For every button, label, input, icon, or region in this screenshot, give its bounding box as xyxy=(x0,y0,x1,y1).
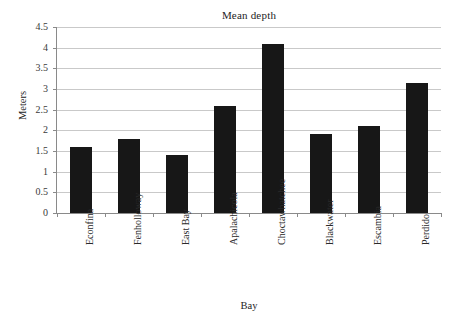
y-tick-mark xyxy=(53,130,57,131)
x-tick-mark xyxy=(345,213,346,217)
gridline xyxy=(57,89,441,90)
bar xyxy=(70,147,92,213)
x-tick-mark xyxy=(153,213,154,217)
x-tick-label: Perdido xyxy=(421,214,431,245)
x-tick-mark xyxy=(57,213,58,217)
x-tick-mark xyxy=(297,213,298,217)
x-tick-label: Choctawhatchee xyxy=(277,179,287,245)
bar xyxy=(166,155,188,213)
gridline xyxy=(57,192,441,193)
x-tick-label: Blackwater xyxy=(325,199,335,245)
gridline xyxy=(57,48,441,49)
gridline xyxy=(57,130,441,131)
y-tick-mark xyxy=(53,110,57,111)
y-tick-label: 4.5 xyxy=(2,22,48,32)
y-tick-label: 1.5 xyxy=(2,146,48,156)
x-tick-label: Econfina xyxy=(85,209,95,245)
chart-figure: Mean depth Meters 00.511.522.533.544.5 E… xyxy=(0,0,464,326)
x-tick-mark xyxy=(441,213,442,217)
y-tick-mark xyxy=(53,172,57,173)
x-tick-label: East Bay xyxy=(181,209,191,245)
y-tick-mark xyxy=(53,48,57,49)
y-tick-mark xyxy=(53,68,57,69)
x-tick-label: Apalachicola xyxy=(229,192,239,245)
gridline xyxy=(57,110,441,111)
x-axis-title: Bay xyxy=(57,300,441,311)
y-tick-label: 0.5 xyxy=(2,187,48,197)
gridline xyxy=(57,68,441,69)
y-tick-label: 0 xyxy=(2,208,48,218)
x-tick-label: Escambia xyxy=(373,206,383,245)
x-tick-mark xyxy=(249,213,250,217)
chart-title: Mean depth xyxy=(57,9,441,21)
y-tick-label: 3 xyxy=(2,84,48,94)
y-tick-label: 2 xyxy=(2,125,48,135)
x-tick-mark xyxy=(393,213,394,217)
bar xyxy=(406,83,428,213)
y-tick-mark xyxy=(53,89,57,90)
y-tick-mark xyxy=(53,151,57,152)
gridline xyxy=(57,27,441,28)
plot-area: 00.511.522.533.544.5 EconfinaFenholloway… xyxy=(57,27,441,213)
y-tick-label: 2.5 xyxy=(2,105,48,115)
bar xyxy=(358,126,380,213)
gridline xyxy=(57,172,441,173)
x-tick-mark xyxy=(105,213,106,217)
y-tick-label: 3.5 xyxy=(2,63,48,73)
gridline xyxy=(57,151,441,152)
y-tick-mark xyxy=(53,192,57,193)
y-tick-label: 1 xyxy=(2,167,48,177)
y-axis-line xyxy=(56,27,57,214)
y-tick-mark xyxy=(53,27,57,28)
y-tick-label: 4 xyxy=(2,43,48,53)
x-tick-label: Fenholloway xyxy=(133,193,143,245)
x-tick-mark xyxy=(201,213,202,217)
